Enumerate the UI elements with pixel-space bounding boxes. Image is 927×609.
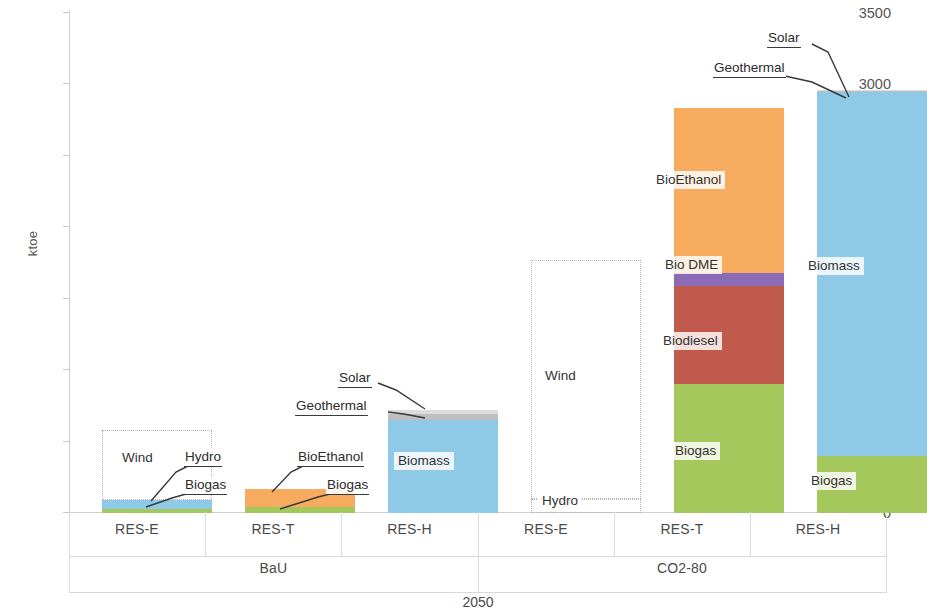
label-co2-rest-biogas: Biogas — [671, 442, 720, 460]
segment-bioethanol — [674, 108, 784, 273]
category-label-bau-rest: RES-T — [205, 521, 341, 537]
segment-biodme — [674, 273, 784, 286]
label-co2-rest-bioethanol: BioEthanol — [652, 171, 725, 189]
label-co2-resh-biomass: Biomass — [804, 257, 864, 275]
label-co2-resh-solar: Solar — [767, 30, 801, 48]
label-bau-rest-biogas: Biogas — [326, 477, 369, 495]
group-label-co2-80: CO2-80 — [478, 560, 886, 576]
plot-area — [69, 10, 887, 513]
group-label-bau: BaU — [69, 560, 478, 576]
segment-hydro — [102, 500, 212, 509]
category-label-co2-rest: RES-T — [614, 521, 750, 537]
label-co2-resh-geothermal: Geothermal — [713, 60, 786, 78]
label-co2-rest-biodme: Bio DME — [661, 256, 722, 274]
axis-separator — [886, 512, 887, 592]
bar-bau-rese — [102, 10, 212, 513]
bar-bau-rest — [245, 10, 355, 513]
y-axis-title: ktoe — [25, 214, 40, 274]
axis-group-divider-lower — [69, 592, 887, 593]
category-label-co2-rese: RES-E — [478, 521, 614, 537]
bar-co2-rese — [531, 10, 641, 513]
label-bau-rese-wind: Wind — [118, 449, 157, 467]
label-bau-rese-biogas: Biogas — [184, 477, 227, 495]
label-bau-rest-bioethanol: BioEthanol — [297, 449, 364, 467]
label-co2-rest-biodiesel: Biodiesel — [659, 332, 722, 350]
bar-bau-resh — [388, 10, 498, 513]
category-label-bau-resh: RES-H — [341, 521, 478, 537]
axis-group-divider-upper — [69, 556, 887, 557]
label-bau-resh-biomass: Biomass — [394, 452, 454, 470]
x-axis-title: 2050 — [69, 594, 887, 609]
category-label-co2-resh: RES-H — [750, 521, 886, 537]
label-co2-rese-wind: Wind — [541, 367, 580, 385]
label-bau-resh-solar: Solar — [338, 370, 372, 388]
label-co2-rese-hydro: Hydro — [538, 492, 582, 510]
segment-biogas — [245, 507, 355, 513]
label-bau-resh-geothermal: Geothermal — [295, 398, 368, 416]
category-label-bau-rese: RES-E — [69, 521, 205, 537]
label-bau-rese-hydro: Hydro — [184, 449, 222, 467]
label-co2-resh-biogas: Biogas — [807, 472, 856, 490]
segment-biogas — [102, 509, 212, 513]
